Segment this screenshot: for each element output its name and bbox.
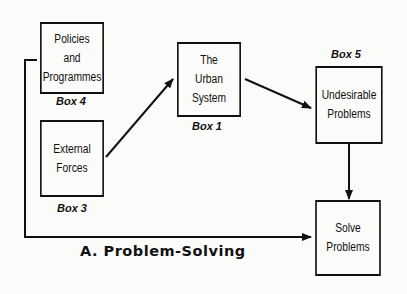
- box4-label: Box 4: [56, 95, 86, 107]
- arrow-box1-to-box5: [245, 79, 311, 108]
- box-text: Programmes: [43, 68, 102, 87]
- box-text: The: [200, 51, 218, 70]
- box5-label: Box 5: [331, 48, 361, 60]
- box-text: Policies: [54, 30, 89, 49]
- box1-label: Box 1: [192, 120, 222, 132]
- box-policies-programmes: Policies and Programmes: [40, 22, 104, 94]
- box-text: System: [192, 89, 226, 108]
- diagram-title: A. Problem-Solving: [80, 243, 246, 259]
- box-solve-problems: Solve Problems: [315, 200, 381, 276]
- box-text: Undesirable: [322, 86, 377, 105]
- box3-label: Box 3: [57, 202, 87, 214]
- box-text: Problems: [327, 105, 370, 124]
- box-text: and: [63, 49, 80, 68]
- box-undesirable-problems: Undesirable Problems: [315, 66, 382, 144]
- box-text: Forces: [56, 159, 87, 178]
- box-urban-system: The Urban System: [177, 42, 241, 117]
- box-text: External: [53, 140, 91, 159]
- box-text: Problems: [326, 238, 369, 257]
- arrow-box3-to-box1: [106, 79, 173, 157]
- box-text: Solve: [335, 219, 361, 238]
- box-external-forces: External Forces: [40, 120, 104, 197]
- box-text: Urban: [195, 70, 223, 89]
